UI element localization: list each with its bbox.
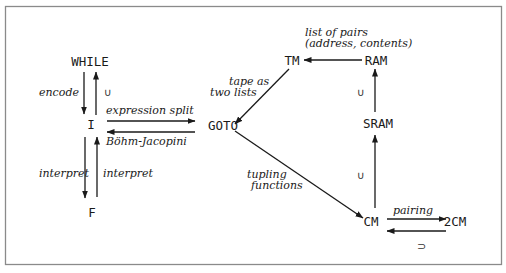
label-interpret-right: interpret [103, 167, 154, 180]
label-bohm-jacopini: Böhm-Jacopini [105, 135, 187, 148]
label-tupling-line2: functions [250, 179, 303, 192]
node-ram: RAM [365, 53, 388, 68]
label-encode: encode [39, 86, 79, 99]
label-sram-ram-subset: ∪ [357, 86, 365, 99]
node-cm: CM [363, 214, 378, 229]
node-f: F [88, 205, 96, 220]
node-goto: GOTO [208, 118, 238, 133]
label-expression-split: expression split [106, 104, 194, 117]
diagram-frame [6, 7, 502, 265]
label-cm-sram-subset: ∪ [357, 169, 365, 182]
label-tape-line2: two lists [210, 86, 257, 99]
node-tm: TM [284, 53, 299, 68]
label-pairing: pairing [393, 204, 433, 217]
node-while: WHILE [71, 54, 109, 69]
node-sram: SRAM [363, 116, 393, 131]
node-2cm: 2CM [444, 214, 467, 229]
label-twocm-cm-supset: ⊃ [417, 240, 426, 253]
node-i: I [87, 117, 95, 132]
label-pairs-line2: (address, contents) [305, 37, 412, 50]
label-while-i-subset: ∪ [104, 86, 112, 99]
label-interpret-left: interpret [39, 167, 90, 180]
diagram-canvas: WHILE I F GOTO TM RAM SRAM CM 2CM encode… [0, 0, 506, 273]
